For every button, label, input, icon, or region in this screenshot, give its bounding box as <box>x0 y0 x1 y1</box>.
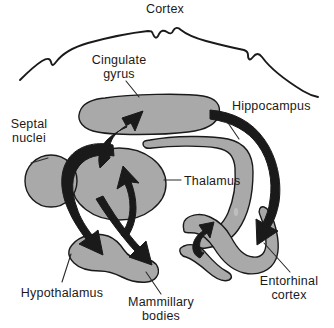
limbic-system-diagram: Cortex Cingulate gyrus Hippocampus Entor… <box>0 0 334 328</box>
entorhinal-cortex-label-line1: Entorhinal <box>260 274 318 288</box>
septal-nuclei-label-line2: nuclei <box>12 131 46 145</box>
septal-nuclei-label-line1: Septal <box>11 117 48 131</box>
print-smudge <box>234 208 238 216</box>
hypothalamus-leader <box>62 254 71 282</box>
cingulate-gyrus-label-line2: gyrus <box>103 67 135 81</box>
cortex-outline <box>20 28 318 97</box>
cingulate-gyrus <box>79 94 220 134</box>
hippocampus-label: Hippocampus <box>232 99 311 113</box>
cortex-label: Cortex <box>146 2 185 16</box>
mammillary-bodies-label-line2: bodies <box>142 309 180 323</box>
entorhinal-cortex-label-line2: cortex <box>271 288 307 302</box>
thalamus-label: Thalamus <box>184 174 240 188</box>
hypothalamus-label: Hypothalamus <box>21 286 103 300</box>
cingulate-gyrus-label-line1: Cingulate <box>92 53 147 67</box>
mammillary-bodies-label-line1: Mammillary <box>128 295 194 309</box>
diagram-canvas: Cortex Cingulate gyrus Hippocampus Entor… <box>0 0 334 328</box>
